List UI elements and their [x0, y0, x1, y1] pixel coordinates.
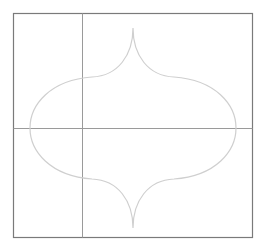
drawing-canvas[interactable]: [0, 0, 266, 247]
